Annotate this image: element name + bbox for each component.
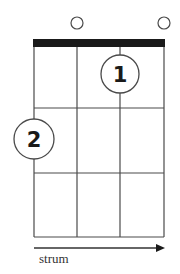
open-string-marker-2 — [71, 17, 83, 29]
strum-label: strum — [39, 251, 69, 266]
open-string-marker-4 — [158, 17, 170, 29]
finger-marker-1: 1 — [101, 55, 139, 93]
chord-diagram: 1 2 strum — [0, 0, 180, 274]
finger-number-2: 2 — [27, 128, 42, 152]
frets — [34, 108, 164, 237]
finger-marker-2: 2 — [14, 119, 54, 159]
arrow-right-icon — [156, 244, 165, 252]
nut-bar — [33, 39, 165, 47]
finger-number-1: 1 — [113, 63, 128, 87]
